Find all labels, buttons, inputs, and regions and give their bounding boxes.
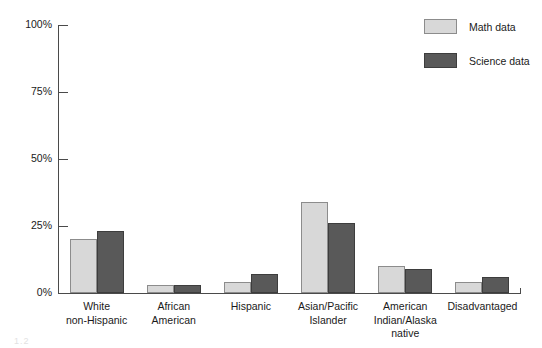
bar-science: [251, 274, 278, 293]
legend-swatch-math-icon: [424, 19, 457, 34]
legend-item-math: Math data: [424, 18, 530, 35]
bar-science: [328, 223, 355, 293]
bar-science: [174, 285, 201, 293]
chart-legend: Math data Science data: [424, 18, 530, 86]
bar-math: [70, 239, 97, 293]
page-artifact-text: 1.2: [14, 336, 30, 346]
category-label: Disadvantaged: [434, 300, 530, 314]
bar-math: [147, 285, 174, 293]
legend-label-math: Math data: [469, 21, 516, 33]
y-tick-label: 50%: [0, 152, 52, 164]
bar-chart-figure: 0%25%50%75%100% White non-HispanicAfrica…: [0, 0, 542, 348]
legend-item-science: Science data: [424, 52, 530, 69]
bar-science: [482, 277, 509, 293]
legend-swatch-science-icon: [424, 53, 457, 68]
bar-math: [224, 282, 251, 293]
bar-math: [455, 282, 482, 293]
y-tick-label: 100%: [0, 18, 52, 30]
bar-math: [378, 266, 405, 293]
x-axis-line: [58, 293, 521, 294]
y-tick-label: 25%: [0, 219, 52, 231]
y-tick-label: 75%: [0, 85, 52, 97]
bar-science: [97, 231, 124, 293]
bar-science: [405, 269, 432, 293]
y-tick-label: 0%: [0, 286, 52, 298]
y-tick-mark: [58, 293, 68, 294]
legend-label-science: Science data: [469, 55, 530, 67]
bar-math: [301, 202, 328, 293]
